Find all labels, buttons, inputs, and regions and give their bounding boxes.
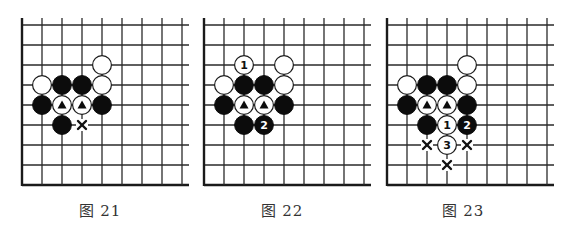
black-stone-move-2: 2 — [255, 116, 274, 135]
white-stone — [275, 76, 294, 95]
white-stone — [458, 76, 477, 95]
caption-diagram-21: 图 21 — [40, 199, 160, 220]
black-stone — [255, 76, 274, 95]
black-stone — [215, 96, 234, 115]
move-number: 1 — [443, 119, 451, 132]
white-stone-triangle-marked — [255, 96, 274, 115]
white-stone-triangle-marked — [53, 96, 72, 115]
black-stone — [235, 76, 254, 95]
move-number: 1 — [240, 59, 248, 72]
board-diagram-23: 123 — [387, 18, 554, 186]
white-stone-move-1: 1 — [438, 116, 457, 135]
black-stone — [418, 116, 437, 135]
white-stone-move-1: 1 — [235, 56, 254, 75]
white-stone — [93, 56, 112, 75]
board-diagram-21 — [22, 18, 189, 186]
board-diagram-22: 12 — [204, 18, 371, 186]
x-mark-icon — [421, 139, 433, 151]
black-stone — [275, 96, 294, 115]
white-stone-move-3: 3 — [438, 136, 457, 155]
black-stone — [93, 96, 112, 115]
white-stone — [398, 76, 417, 95]
white-stone — [215, 76, 234, 95]
black-stone — [53, 76, 72, 95]
white-stone-triangle-marked — [235, 96, 254, 115]
caption-diagram-23: 图 23 — [403, 199, 523, 220]
move-number: 2 — [260, 119, 268, 132]
black-stone — [418, 76, 437, 95]
white-stone — [275, 56, 294, 75]
black-stone — [438, 76, 457, 95]
black-stone-move-2: 2 — [458, 116, 477, 135]
black-stone — [53, 116, 72, 135]
black-stone — [33, 96, 52, 115]
x-mark-icon — [461, 139, 473, 151]
caption-diagram-22: 图 22 — [222, 199, 342, 220]
white-stone — [458, 56, 477, 75]
move-number: 2 — [463, 119, 471, 132]
white-stone — [93, 76, 112, 95]
white-stone — [33, 76, 52, 95]
black-stone — [73, 76, 92, 95]
x-mark-icon — [441, 159, 453, 171]
x-mark-icon — [76, 119, 88, 131]
white-stone-triangle-marked — [73, 96, 92, 115]
black-stone — [398, 96, 417, 115]
black-stone — [458, 96, 477, 115]
black-stone — [235, 116, 254, 135]
white-stone-triangle-marked — [418, 96, 437, 115]
white-stone-triangle-marked — [438, 96, 457, 115]
move-number: 3 — [443, 139, 451, 152]
